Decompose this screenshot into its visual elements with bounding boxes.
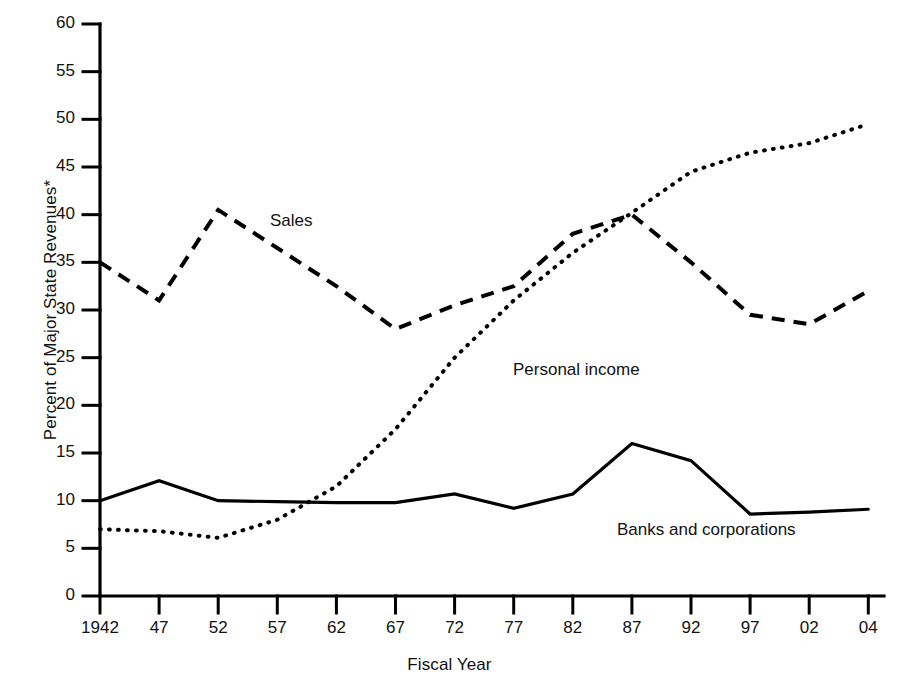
y-axis-tick-label: 60 bbox=[15, 13, 75, 33]
y-axis-tick-label: 25 bbox=[15, 347, 75, 367]
y-axis-ticks bbox=[83, 24, 100, 596]
y-axis-tick-label: 15 bbox=[15, 442, 75, 462]
y-axis-tick-label: 20 bbox=[15, 394, 75, 414]
y-axis-tick-label: 35 bbox=[15, 251, 75, 271]
x-axis-tick-label: 04 bbox=[828, 618, 899, 638]
x-axis-title: Fiscal Year bbox=[0, 655, 899, 675]
series-label-personal-income: Personal income bbox=[513, 360, 640, 380]
y-axis-tick-label: 55 bbox=[15, 61, 75, 81]
axis-lines bbox=[100, 24, 884, 596]
series-line-personal-income bbox=[100, 124, 868, 538]
x-axis-ticks bbox=[100, 596, 868, 613]
y-axis-tick-label: 10 bbox=[15, 490, 75, 510]
series-lines bbox=[100, 124, 868, 538]
chart-plot-area bbox=[0, 0, 899, 688]
series-label-sales: Sales bbox=[270, 211, 313, 231]
series-line-sales bbox=[100, 210, 868, 329]
y-axis-tick-label: 40 bbox=[15, 204, 75, 224]
y-axis-tick-label: 30 bbox=[15, 299, 75, 319]
y-axis-tick-label: 45 bbox=[15, 156, 75, 176]
chart-figure: Percent of Major State Revenues* Fiscal … bbox=[0, 0, 899, 688]
series-line-banks-and-corporations bbox=[100, 443, 868, 514]
y-axis-tick-label: 0 bbox=[15, 585, 75, 605]
series-label-banks-and-corporations: Banks and corporations bbox=[617, 520, 796, 540]
y-axis-tick-label: 5 bbox=[15, 537, 75, 557]
y-axis-tick-label: 50 bbox=[15, 108, 75, 128]
